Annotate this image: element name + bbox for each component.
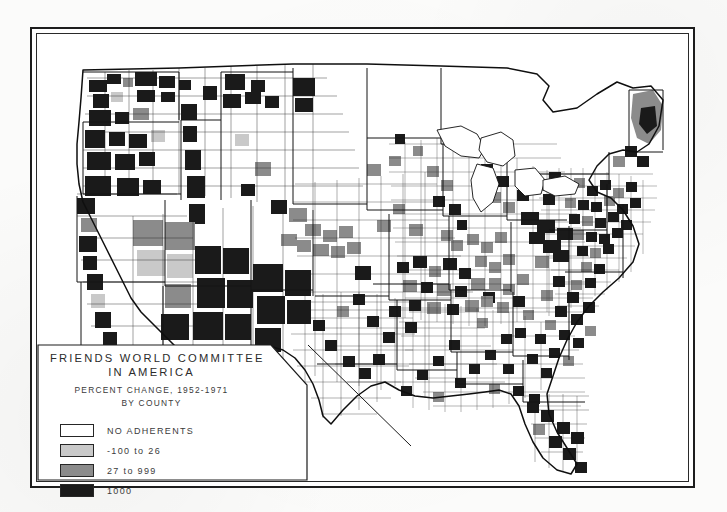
legend-subtitle-line-1: PERCENT CHANGE, 1952-1971 [37,385,308,395]
legend-label-class-3: 27 to 999 [107,466,157,476]
legend-row-class-2: -100 to 26 [60,441,308,460]
legend-row-class-4: 1000 [60,481,308,500]
legend-label-no-adherents: NO ADHERENTS [107,426,194,436]
legend-label-class-4: 1000 [107,486,132,496]
legend-swatch-class-4 [60,484,94,497]
map-page: FRIENDS WORLD COMMITTEE IN AMERICA PERCE… [0,0,727,512]
legend-row-no-adherents: NO ADHERENTS [60,421,308,440]
legend-row-class-3: 27 to 999 [60,461,308,480]
legend-title-line-1: FRIENDS WORLD COMMITTEE [37,352,308,364]
legend-label-class-2: -100 to 26 [107,446,161,456]
legend-class-list: NO ADHERENTS -100 to 26 27 to 999 1000 [37,421,308,500]
legend-swatch-class-3 [60,464,94,477]
legend-swatch-class-2 [60,444,94,457]
map-legend: FRIENDS WORLD COMMITTEE IN AMERICA PERCE… [37,344,308,481]
legend-swatch-no-adherents [60,424,94,437]
legend-title-line-2: IN AMERICA [37,366,308,378]
legend-subtitle-line-2: BY COUNTY [37,398,308,408]
